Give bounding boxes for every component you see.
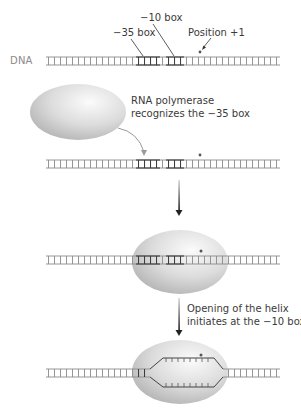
- minus35-box-label: −35 box: [113, 27, 155, 39]
- step1-caption: RNA polymerase recognizes the −35 box: [131, 94, 250, 120]
- position1-label: Position +1: [188, 27, 245, 39]
- step1-caption-line1: RNA polymerase: [131, 94, 250, 107]
- step2-caption-line2: initiates at the −10 box: [187, 315, 301, 328]
- step2-caption: Opening of the helix initiates at the −1…: [187, 302, 301, 328]
- curved-arrow: [118, 128, 144, 152]
- step2-caption-line1: Opening of the helix: [187, 302, 301, 315]
- minus35-box-region: [136, 57, 160, 65]
- minus10-box-region: [166, 57, 184, 65]
- dna-label: DNA: [10, 55, 33, 66]
- dna-strand-2: [46, 154, 280, 168]
- minus10-box-label: −10 box: [140, 12, 182, 24]
- rna-polymerase-free: [30, 84, 126, 140]
- promoter-recognition-diagram: [0, 0, 301, 417]
- minus10-leader-line: [153, 24, 174, 56]
- position1-dot: [199, 51, 202, 54]
- minus35-leader-line: [131, 39, 143, 56]
- dna-strand-1: [46, 24, 280, 65]
- step1-caption-line2: recognizes the −35 box: [131, 107, 250, 120]
- down-arrow-2: [176, 298, 183, 336]
- down-arrow-1: [176, 180, 183, 216]
